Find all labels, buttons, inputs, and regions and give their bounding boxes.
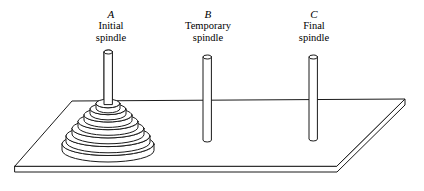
peg-b-caption-line1: Temporary [165,20,251,32]
spindle-a-cap-overlay [104,50,112,54]
spindle-c [309,55,317,141]
peg-a-letter: A [72,8,150,20]
peg-label-b: B Temporary spindle [165,8,251,44]
peg-label-c: C Final spindle [274,8,354,44]
spindle-c-shaft [309,57,317,141]
peg-a-caption-line2: spindle [72,32,150,44]
peg-label-a: A Initial spindle [72,8,150,44]
peg-c-caption-line2: spindle [274,32,354,44]
spindle-b-cap [203,55,211,59]
spindle-c-cap [309,55,317,59]
hanoi-diagram: A Initial spindle B Temporary spindle C … [0,0,424,191]
peg-c-letter: C [274,8,354,20]
spindle-a-shaft-overlay [104,52,112,105]
peg-c-caption-line1: Final [274,20,354,32]
peg-a-caption-line1: Initial [72,20,150,32]
peg-b-letter: B [165,8,251,20]
spindle-b-shaft [203,57,211,142]
spindle-b [203,55,211,142]
peg-b-caption-line2: spindle [165,32,251,44]
